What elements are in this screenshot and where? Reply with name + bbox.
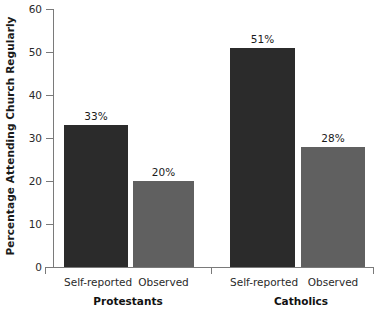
x-tick-0 [45,268,46,274]
category-label-self-reported: Self-reported [64,276,128,288]
y-tick-60 [46,9,53,10]
category-label-observed: Observed [133,276,194,288]
x-axis-line [45,267,374,268]
bar-catholics-observed [301,147,365,267]
y-tick-label-0: 0 [2,262,42,273]
bar-value-label: 33% [64,111,128,122]
y-tick-10 [46,224,53,225]
y-tick-20 [46,181,53,182]
y-tick-0 [46,267,53,268]
y-axis-line [53,9,54,268]
bar-value-label: 20% [133,167,194,178]
y-tick-30 [46,138,53,139]
bar-chart: Percentage Attending Church Regularly 01… [0,0,383,320]
y-tick-label-10: 10 [2,219,42,230]
bar-value-label: 51% [230,34,295,45]
group-label-protestants: Protestants [58,295,198,307]
y-tick-label-30: 30 [2,133,42,144]
bar-catholics-self-reported [230,48,295,267]
category-label-observed: Observed [301,276,365,288]
y-tick-label-40: 40 [2,90,42,101]
y-tick-label-50: 50 [2,47,42,58]
y-tick-label-60: 60 [2,4,42,15]
y-tick-label-20: 20 [2,176,42,187]
y-tick-40 [46,95,53,96]
x-tick-1 [211,268,212,274]
bar-protestants-self-reported [64,125,128,267]
bar-protestants-observed [133,181,194,267]
x-tick-2 [373,268,374,274]
y-tick-50 [46,52,53,53]
group-label-catholics: Catholics [231,295,371,307]
bar-value-label: 28% [301,133,365,144]
category-label-self-reported: Self-reported [230,276,295,288]
